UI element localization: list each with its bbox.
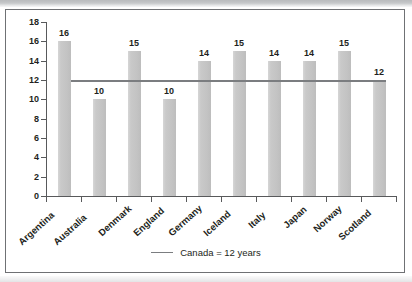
y-axis-tick-label: 6	[34, 133, 39, 143]
chart-frame: 024681012141618 16101510141514141512 Arg…	[5, 9, 405, 273]
bar-value-label: 14	[269, 48, 279, 58]
legend-line-swatch	[151, 252, 173, 254]
y-axis-tick	[41, 177, 46, 178]
bar	[233, 51, 246, 196]
x-axis-category-label-wrap: Scotland	[376, 200, 412, 211]
bar-value-label: 14	[199, 48, 209, 58]
y-axis-tick	[41, 61, 46, 62]
x-axis-category-label: Italy	[246, 209, 267, 230]
y-axis-tick	[41, 138, 46, 139]
bar	[93, 99, 106, 196]
x-axis-category-label: Australia	[51, 211, 89, 246]
bar-value-label: 10	[164, 86, 174, 96]
scan-edge-bottom	[0, 276, 412, 282]
bar-value-label: 15	[234, 38, 244, 48]
y-axis-tick	[41, 41, 46, 42]
bar-value-label: 10	[94, 86, 104, 96]
x-axis-category-label: Argentina	[16, 209, 56, 247]
y-axis-tick-label: 8	[34, 114, 39, 124]
y-axis-tick-label: 2	[34, 172, 39, 182]
chart-legend: Canada = 12 years	[6, 247, 406, 258]
bar	[373, 80, 386, 196]
x-axis-category-label: Iceland	[201, 208, 233, 238]
bar-value-label: 14	[304, 48, 314, 58]
reference-line-canada	[71, 80, 386, 82]
bar	[163, 99, 176, 196]
y-axis-tick-label: 4	[34, 152, 39, 162]
bar	[128, 51, 141, 196]
y-axis-tick	[41, 119, 46, 120]
bar-value-label: 15	[129, 38, 139, 48]
scan-edge-top	[0, 0, 412, 7]
y-axis-tick-label: 12	[29, 75, 39, 85]
y-axis-tick	[41, 99, 46, 100]
bar-value-label: 16	[59, 28, 69, 38]
legend-label: Canada = 12 years	[180, 247, 261, 258]
bar	[58, 41, 71, 196]
y-axis-tick-label: 0	[34, 191, 39, 201]
x-axis-category-label-wrap: Italy	[271, 200, 290, 211]
x-axis-category-label-wrap: Iceland	[236, 200, 269, 211]
bar-value-label: 15	[339, 38, 349, 48]
plot-area: 024681012141618 16101510141514141512	[46, 22, 396, 196]
y-axis-tick	[41, 80, 46, 81]
y-axis-tick	[41, 22, 46, 23]
y-axis-tick-label: 10	[29, 94, 39, 104]
y-axis-tick-label: 16	[29, 36, 39, 46]
bar	[338, 51, 351, 196]
bar-value-label: 12	[374, 67, 384, 77]
y-axis-tick-label: 14	[29, 56, 39, 66]
y-axis-tick	[41, 157, 46, 158]
y-axis-tick-label: 18	[29, 17, 39, 27]
x-axis-category-label-wrap: Norway	[341, 200, 375, 211]
y-axis-line	[46, 22, 47, 196]
